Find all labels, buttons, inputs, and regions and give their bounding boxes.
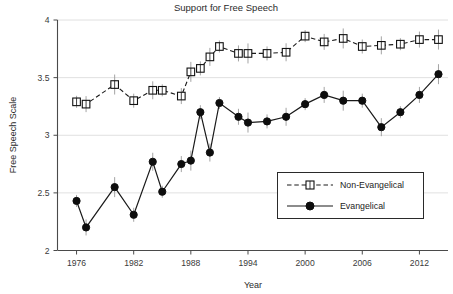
x-tick-label: 1976: [67, 258, 86, 268]
y-tick-label: 2.5: [38, 188, 50, 198]
x-axis-label: Year: [244, 280, 262, 290]
y-tick-label: 2: [45, 246, 50, 256]
data-point-marker[interactable]: [149, 158, 156, 165]
chart-legend: Non-Evangelical Evangelical: [278, 173, 424, 219]
data-point-marker[interactable]: [216, 99, 223, 106]
legend-marker-filled-circle: [306, 202, 314, 210]
data-point-marker[interactable]: [359, 97, 366, 104]
x-tick-label: 2006: [353, 258, 372, 268]
data-point-marker[interactable]: [340, 97, 347, 104]
chart-title: Support for Free Speech: [174, 2, 278, 13]
y-tick-label: 3: [45, 130, 50, 140]
data-point-marker[interactable]: [282, 113, 289, 120]
y-tick-label: 4: [45, 15, 50, 25]
x-tick-label: 2012: [410, 258, 429, 268]
data-point-marker[interactable]: [378, 124, 385, 131]
data-point-marker[interactable]: [130, 211, 137, 218]
data-point-marker[interactable]: [321, 91, 328, 98]
data-point-marker[interactable]: [416, 91, 423, 98]
data-point-marker[interactable]: [397, 109, 404, 116]
y-axis-label: Free Speech Scale: [8, 97, 18, 174]
data-point-marker[interactable]: [159, 188, 166, 195]
data-point-marker[interactable]: [197, 109, 204, 116]
x-tick-label: 1994: [238, 258, 257, 268]
chart-container: Support for Free Speech 22.533.54 197619…: [0, 0, 453, 294]
x-tick-label: 2000: [296, 258, 315, 268]
y-tick-label: 3.5: [38, 73, 50, 83]
free-speech-line-chart: Support for Free Speech 22.533.54 197619…: [0, 0, 453, 294]
y-axis-ticks: 22.533.54: [38, 15, 58, 256]
data-point-marker[interactable]: [235, 113, 242, 120]
data-point-marker[interactable]: [73, 197, 80, 204]
data-point-marker[interactable]: [187, 157, 194, 164]
data-point-marker[interactable]: [82, 224, 89, 231]
legend-label-evangelical: Evangelical: [340, 201, 385, 211]
data-point-marker[interactable]: [435, 71, 442, 78]
data-point-marker[interactable]: [302, 101, 309, 108]
legend-label-non-evangelical: Non-Evangelical: [340, 180, 404, 190]
data-point-marker[interactable]: [111, 184, 118, 191]
data-point-marker[interactable]: [206, 149, 213, 156]
series-non-evangelical: [73, 28, 443, 112]
x-axis-ticks: 1976198219881994200020062012: [67, 251, 429, 268]
data-point-marker[interactable]: [178, 160, 185, 167]
x-tick-label: 1988: [181, 258, 200, 268]
data-point-marker[interactable]: [263, 118, 270, 125]
data-point-marker[interactable]: [244, 119, 251, 126]
x-tick-label: 1982: [124, 258, 143, 268]
